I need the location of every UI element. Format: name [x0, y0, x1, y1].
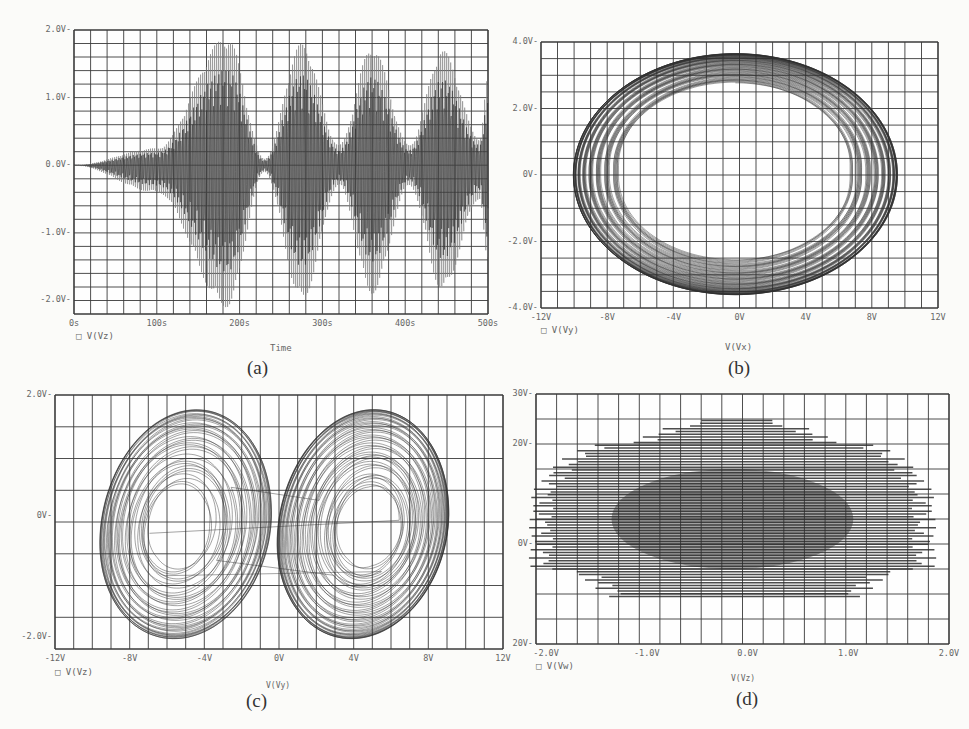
x-tick-label: 8V — [403, 653, 453, 663]
x-tick-label: 300s — [297, 318, 347, 328]
legend-marker-square-icon: □ — [76, 331, 81, 341]
x-tick-label: 0V — [254, 653, 304, 663]
x-axis-title-b: V(Vx) — [725, 342, 752, 352]
y-tick-label: 4.0V- — [494, 36, 538, 46]
y-tick-label: 0V- — [8, 510, 52, 520]
y-tick-label: 20V- — [489, 438, 533, 448]
x-axis-title-d: V(Vz) — [731, 674, 755, 683]
x-tick-label: -12V — [30, 653, 80, 663]
trace — [74, 42, 488, 307]
x-tick-label: 0V — [715, 312, 765, 322]
y-tick-label: 1.0V- — [27, 92, 71, 102]
y-tick-label: -2.0V- — [8, 631, 52, 641]
x-tick-label: 12V — [913, 312, 963, 322]
y-tick-label: -4.0V- — [494, 302, 538, 312]
x-tick-label: -1.0V — [622, 648, 672, 658]
trace — [573, 54, 897, 295]
x-tick-label: 8V — [847, 312, 897, 322]
legend-marker-square-icon: □ — [541, 325, 546, 335]
x-tick-label: -2.0V — [521, 648, 571, 658]
x-tick-label: -8V — [582, 312, 632, 322]
legend-label: V(Vz) — [87, 331, 114, 341]
plot-area-c — [55, 395, 503, 649]
y-tick-label: 20V- — [489, 638, 533, 648]
x-tick-label: 200s — [215, 318, 265, 328]
y-tick-label: 30V- — [489, 388, 533, 398]
x-tick-label: 0s — [49, 318, 99, 328]
plot-svg-a — [74, 30, 488, 314]
plot-svg-d — [536, 394, 949, 644]
x-tick-label: 2.0V — [924, 648, 969, 658]
x-axis-title-a: Time — [270, 343, 292, 353]
legend-c: □ V(Vz) — [55, 667, 93, 677]
y-tick-label: -1.0V- — [27, 227, 71, 237]
caption-d: (d) — [736, 688, 758, 710]
legend-label: V(Vy) — [552, 325, 579, 335]
legend-label: V(Vw) — [547, 661, 574, 671]
legend-marker-square-icon: □ — [55, 667, 60, 677]
trace — [100, 410, 449, 639]
caption-a: (a) — [247, 357, 268, 379]
plot-area-a — [74, 30, 488, 314]
legend-b: □ V(Vy) — [541, 325, 579, 335]
plot-area-b — [541, 42, 938, 308]
y-tick-label: -2.0V- — [494, 236, 538, 246]
y-tick-label: 2.0V- — [27, 24, 71, 34]
x-tick-label: -4V — [179, 653, 229, 663]
x-tick-label: -4V — [648, 312, 698, 322]
x-tick-label: 4V — [781, 312, 831, 322]
x-axis-title-c: V(Vy) — [266, 681, 290, 690]
x-tick-label: -12V — [516, 312, 566, 322]
legend-label: V(Vz) — [66, 667, 93, 677]
y-tick-label: 0V- — [494, 169, 538, 179]
x-tick-label: -8V — [105, 653, 155, 663]
x-tick-label: 0.0V — [723, 648, 773, 658]
caption-b: (b) — [728, 357, 750, 379]
x-tick-label: 100s — [132, 318, 182, 328]
plot-svg-c — [55, 395, 503, 649]
plot-area-d — [536, 394, 949, 644]
plot-svg-b — [541, 42, 938, 308]
x-tick-label: 500s — [463, 318, 513, 328]
caption-c: (c) — [246, 690, 267, 712]
y-tick-label: 0V- — [489, 538, 533, 548]
legend-a: □ V(Vz) — [76, 331, 114, 341]
y-tick-label: 2.0V- — [494, 103, 538, 113]
y-tick-label: -2.0V- — [27, 294, 71, 304]
x-tick-label: 400s — [380, 318, 430, 328]
x-tick-label: 1.0V — [823, 648, 873, 658]
legend-d: □ V(Vw) — [536, 661, 574, 671]
trace — [74, 71, 488, 271]
y-tick-label: 0.0V- — [27, 159, 71, 169]
y-tick-label: 2.0V- — [8, 389, 52, 399]
x-tick-label: 4V — [329, 653, 379, 663]
legend-marker-square-icon: □ — [536, 661, 541, 671]
